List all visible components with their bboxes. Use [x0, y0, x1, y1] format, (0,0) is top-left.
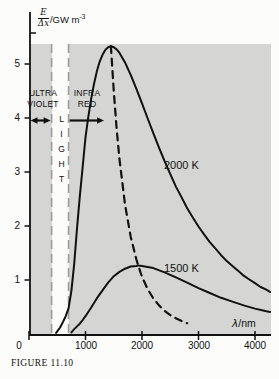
- ir-region-label: INFRA RED: [69, 88, 105, 110]
- x-tick-label: 4000: [244, 340, 266, 351]
- light-region-label: LIGHT: [58, 112, 65, 187]
- curve-label-2000k: 2000 K: [164, 159, 199, 171]
- y-tick-label: 2: [4, 220, 20, 231]
- x-axis-label: λ/nm: [232, 317, 256, 329]
- y-axis-unit: /GW m-3: [50, 13, 85, 25]
- y-tick-label: 3: [4, 166, 20, 177]
- y-tick-label: 5: [4, 58, 20, 69]
- y-axis-fraction-denominator: Δx: [38, 19, 49, 29]
- x-tick-label: 3000: [188, 340, 210, 351]
- figure-caption: FIGURE 11.10: [11, 358, 74, 368]
- x-tick-label: 1000: [75, 340, 97, 351]
- y-tick-label: 1: [4, 274, 20, 285]
- uv-region-label: ULTRA VIOLET: [25, 88, 61, 110]
- x-tick-label: 0: [16, 340, 22, 351]
- curve-label-1500k: 1500 K: [164, 262, 199, 274]
- y-axis-label: E Δx /GW m-3: [38, 8, 85, 29]
- figure-11-10: E Δx /GW m-3 5 4 3 2 1 0 1000 2000 3000 …: [0, 0, 279, 379]
- y-tick-label: 4: [4, 112, 20, 123]
- y-axis-fraction: E Δx: [38, 8, 49, 29]
- uv-arrow: [31, 117, 51, 124]
- x-tick-label: 2000: [131, 340, 153, 351]
